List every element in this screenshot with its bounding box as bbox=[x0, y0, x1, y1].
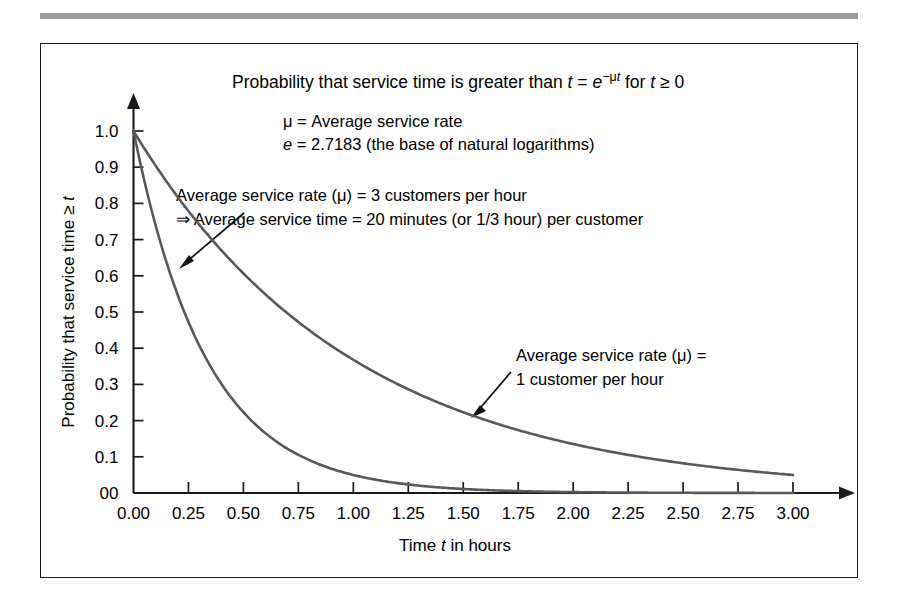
title-ge-zero: ≥ 0 bbox=[655, 72, 684, 92]
x-axis-arrowhead bbox=[839, 487, 855, 500]
y-axis-title: Probability that service time ≥ t bbox=[59, 195, 78, 428]
legend-note-e-symbol: e bbox=[283, 135, 292, 153]
x-axis-tick-labels: 0.000.250.500.751.001.251.501.752.002.25… bbox=[117, 504, 810, 523]
x-tick-label: 0.25 bbox=[172, 504, 205, 523]
legend-note-mu-symbol: μ bbox=[283, 112, 293, 130]
legend-note-e: e = 2.7183 (the base of natural logarith… bbox=[283, 135, 594, 153]
legend-note-e-text: = 2.7183 (the base of natural logarithms… bbox=[292, 135, 594, 153]
y-tick-label: 0.1 bbox=[95, 448, 119, 467]
x-tick-label: 0.50 bbox=[227, 504, 260, 523]
mu1-annotation-line-1: Average service rate (μ) = bbox=[516, 346, 706, 364]
x-tick-label: 2.50 bbox=[667, 504, 700, 523]
x-tick-label: 1.00 bbox=[337, 504, 370, 523]
figure-page: Probability that service time is greater… bbox=[0, 0, 897, 609]
series-curve-mu-1 bbox=[134, 131, 794, 475]
x-tick-label: 3.00 bbox=[776, 504, 809, 523]
y-tick-label: 0.8 bbox=[95, 194, 119, 213]
x-axis-title: Time t in hours bbox=[399, 536, 511, 555]
x-tick-label: 2.25 bbox=[612, 504, 645, 523]
y-tick-label: 1.0 bbox=[95, 122, 119, 141]
x-tick-label: 1.75 bbox=[502, 504, 535, 523]
y-axis-group: 000.10.20.30.40.50.60.70.80.91.0 bbox=[95, 93, 144, 503]
title-lead: Probability that service time is greater… bbox=[232, 72, 568, 92]
chart-title: Probability that service time is greater… bbox=[232, 70, 685, 92]
y-tick-label: 0.9 bbox=[95, 158, 119, 177]
y-tick-label: 0.6 bbox=[95, 267, 119, 286]
x-tick-label: 1.50 bbox=[447, 504, 480, 523]
title-var-e: e bbox=[592, 72, 602, 92]
y-tick-label: 0.7 bbox=[95, 231, 119, 250]
title-tail: for bbox=[620, 72, 650, 92]
mu3-annotation-line-2: ⇒ Average service time = 20 minutes (or … bbox=[176, 210, 644, 228]
mu1-annotation-line-2: 1 customer per hour bbox=[516, 370, 664, 388]
y-axis-ticks bbox=[134, 131, 144, 457]
x-tick-label: 2.75 bbox=[721, 504, 754, 523]
title-exponent-mu: −μ bbox=[602, 70, 617, 84]
y-tick-label: 00 bbox=[100, 484, 119, 503]
y-tick-label: 0.5 bbox=[95, 303, 119, 322]
y-axis-arrowhead bbox=[127, 93, 140, 109]
y-tick-label: 0.2 bbox=[95, 412, 119, 431]
x-tick-label: 0.75 bbox=[282, 504, 315, 523]
legend-note-mu: μ = Average service rate bbox=[283, 112, 462, 130]
y-tick-label: 0.3 bbox=[95, 375, 119, 394]
y-axis-tick-labels: 000.10.20.30.40.50.60.70.80.91.0 bbox=[95, 122, 119, 503]
mu3-annotation-line-1: Average service rate (μ) = 3 customers p… bbox=[176, 186, 527, 204]
x-tick-label: 2.00 bbox=[557, 504, 590, 523]
x-tick-label: 0.00 bbox=[117, 504, 150, 523]
y-tick-label: 0.4 bbox=[95, 339, 119, 358]
exponential-service-time-chart: Probability that service time is greater… bbox=[0, 0, 897, 609]
title-eq: = bbox=[572, 72, 592, 92]
x-axis-group: 0.000.250.500.751.001.251.501.752.002.25… bbox=[117, 482, 855, 523]
mu1-leader-arrow bbox=[471, 372, 511, 418]
x-tick-label: 1.25 bbox=[392, 504, 425, 523]
legend-note-mu-text: = Average service rate bbox=[293, 112, 463, 130]
